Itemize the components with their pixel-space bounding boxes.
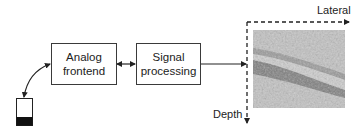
analog-frontend-line1: Analog (66, 50, 102, 64)
ultrasound-image (253, 30, 345, 108)
signal-processing-line1: Signal (153, 50, 185, 64)
transducer-probe-icon (17, 99, 33, 126)
signal-processing-block: Signal processing (136, 43, 201, 85)
depth-axis-label: Depth (213, 108, 242, 120)
signal-processing-line2: processing (141, 64, 197, 78)
analog-frontend-line2: frontend (63, 64, 105, 78)
analog-frontend-block: Analog frontend (51, 43, 117, 85)
probe-to-analog-arrow (24, 64, 50, 97)
lateral-axis-label: Lateral (317, 4, 351, 16)
